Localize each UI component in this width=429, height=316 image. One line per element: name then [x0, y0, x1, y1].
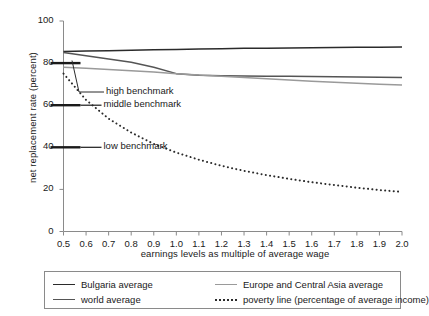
y-tick-label: 80: [28, 56, 54, 67]
legend-swatch-icon: [215, 279, 237, 289]
benchmark-label: low benchmark: [104, 140, 168, 151]
legend-swatch-icon: [53, 279, 75, 289]
benchmark-label: high benchmark: [106, 85, 174, 96]
high-benchmark-leader: [72, 61, 104, 93]
legend-label: Bulgaria average: [81, 279, 153, 290]
legend-item: Bulgaria average: [53, 277, 153, 291]
y-tick-label: 40: [28, 140, 54, 151]
y-tick-label: 20: [28, 182, 54, 193]
legend-label: Europe and Central Asia average: [243, 279, 383, 290]
axes: [64, 21, 403, 232]
benchmark-label: middle benchmark: [104, 98, 182, 109]
legend-item: poverty line (percentage of average inco…: [215, 292, 429, 306]
series-bulgaria-average: [64, 47, 403, 51]
y-tick-label: 60: [28, 98, 54, 109]
benchmark-markers: [51, 63, 102, 147]
legend-label: world average: [81, 294, 141, 305]
data-series: [64, 47, 403, 192]
legend-item: Europe and Central Asia average: [215, 277, 383, 291]
y-tick-label: 0: [28, 225, 54, 236]
series-world-average: [64, 53, 403, 78]
legend-swatch-icon: [215, 294, 237, 304]
legend-item: world average: [53, 292, 141, 306]
series-europe-and-central-asia-average: [64, 67, 403, 85]
chart-legend: Bulgaria averageworld averageEurope and …: [44, 271, 401, 309]
x-tick-marks: [64, 232, 403, 236]
legend-swatch-icon: [53, 294, 75, 304]
annotation-leader-lines: [72, 61, 104, 93]
y-tick-label: 100: [28, 14, 54, 25]
legend-label: poverty line (percentage of average inco…: [243, 294, 429, 305]
y-tick-marks: [60, 21, 64, 232]
x-tick-label: 2.0: [389, 238, 415, 249]
